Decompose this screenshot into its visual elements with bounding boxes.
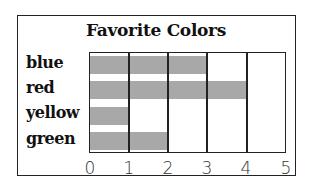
category-label-green: green xyxy=(26,129,75,148)
x-tick-1: 1 xyxy=(119,158,139,178)
x-tick-2: 2 xyxy=(158,158,178,178)
gridline-1 xyxy=(128,52,130,153)
x-tick-4: 4 xyxy=(236,158,256,178)
x-tick-5: 5 xyxy=(276,158,296,178)
category-label-blue: blue xyxy=(26,53,63,72)
x-tick-3: 3 xyxy=(197,158,217,178)
gridline-2 xyxy=(167,52,169,153)
category-label-red: red xyxy=(26,78,54,97)
bar-red xyxy=(90,81,248,99)
bar-yellow xyxy=(90,107,129,125)
x-tick-0: 0 xyxy=(80,158,100,178)
bar-blue xyxy=(90,56,208,74)
gridline-3 xyxy=(206,52,208,153)
category-label-yellow: yellow xyxy=(26,103,79,122)
gridline-4 xyxy=(246,52,248,153)
chart-title: Favorite Colors xyxy=(0,20,312,40)
